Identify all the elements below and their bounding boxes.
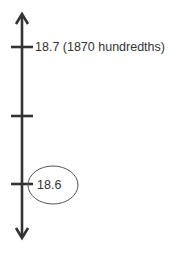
tick-label-bottom: 18.6: [37, 178, 61, 192]
number-line-diagram: [0, 0, 171, 253]
tick-label-top: 18.7 (1870 hundredths): [35, 40, 165, 54]
